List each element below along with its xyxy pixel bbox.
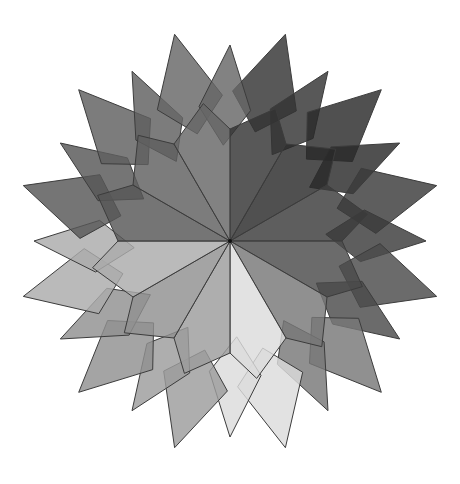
rosette-svg (0, 0, 460, 484)
rosette-figure (0, 0, 460, 484)
center-point (228, 239, 232, 243)
